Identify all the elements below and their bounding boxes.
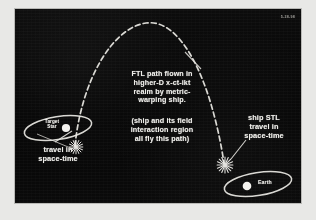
leader-line-ship-stl xyxy=(231,140,246,159)
leader-line-ftl-path xyxy=(185,52,201,69)
starburst-right-icon xyxy=(217,157,233,173)
annotation-ship-field-region: (ship and its field interaction region a… xyxy=(116,117,208,143)
annotation-ftl-path: FTL path flown in higher-D x-ct-ikt real… xyxy=(118,70,206,105)
slide-canvas: FTL path flown in higher-D x-ct-ikt real… xyxy=(15,9,301,203)
label-earth: Earth xyxy=(258,180,284,186)
leader-line-target-star xyxy=(55,131,72,142)
annotation-travel-in-spacetime: travel in space-time xyxy=(25,145,91,163)
diagram-artwork xyxy=(15,9,301,203)
label-target-star: Target Star xyxy=(37,119,67,130)
corner-stamp: 5-28-98 xyxy=(281,15,295,19)
slide-frame: FTL path flown in higher-D x-ct-ikt real… xyxy=(0,0,316,220)
earth-body xyxy=(243,182,252,191)
annotation-ship-stl-travel: ship STL travel in space-time xyxy=(231,113,297,140)
